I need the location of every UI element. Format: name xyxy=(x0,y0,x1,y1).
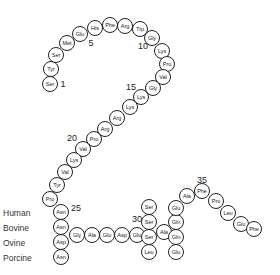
residue-7: Phe xyxy=(102,17,118,33)
residue-39: Phe xyxy=(246,221,262,237)
species-label-bovine: Bovine xyxy=(3,223,29,233)
variant-residue-25: Asp xyxy=(53,234,69,250)
variant-residue-31: Ser xyxy=(141,199,157,215)
residue-8: Arg xyxy=(117,18,133,34)
species-label-ovine: Ovine xyxy=(3,238,25,248)
residue-16: Lys xyxy=(122,99,138,115)
position-label: 25 xyxy=(71,203,81,213)
residue-26: Gly xyxy=(69,227,85,243)
residue-33: Gln xyxy=(168,214,184,230)
residue-29: Asp xyxy=(114,227,130,243)
residue-27: Ala xyxy=(84,227,100,243)
residue-25: Asn xyxy=(53,204,69,220)
residue-1: Ser xyxy=(42,76,58,92)
variant-residue-31: Ser xyxy=(141,229,157,245)
residue-28: Glu xyxy=(99,227,115,243)
residue-5: Glu xyxy=(72,26,88,42)
residue-31: Ser xyxy=(141,214,157,230)
position-label: 20 xyxy=(67,133,77,143)
position-label: 5 xyxy=(88,38,93,48)
variant-residue-33: Glu xyxy=(168,244,184,260)
variant-residue-31: Leu xyxy=(141,244,157,260)
position-label: 30 xyxy=(132,214,142,224)
position-label: 10 xyxy=(138,41,148,51)
variant-residue-25: Asn xyxy=(53,249,69,265)
residue-2: Tyr xyxy=(43,61,59,77)
position-label: 35 xyxy=(197,175,207,185)
residue-35: Phe xyxy=(194,183,210,199)
position-label: 15 xyxy=(126,82,136,92)
species-label-porcine: Porcine xyxy=(3,253,32,263)
variant-residue-25: Asn xyxy=(53,219,69,235)
variant-residue-33: Glu xyxy=(168,200,184,216)
variant-residue-33: Gln xyxy=(168,229,184,245)
position-label: 1 xyxy=(60,79,65,89)
acth-sequence-diagram: SerTyrSerMetGluHisPheArgTrpGlyLysProValG… xyxy=(0,0,280,275)
species-label-human: Human xyxy=(3,208,30,218)
residue-6: His xyxy=(87,20,103,36)
